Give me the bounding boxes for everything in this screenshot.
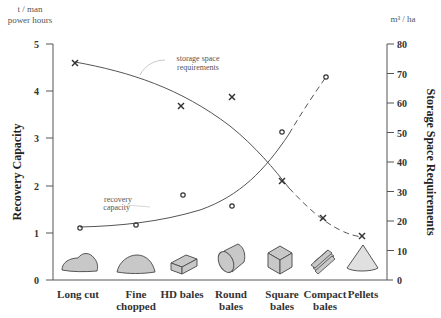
recovery-curve <box>80 134 289 227</box>
o-marker-compact-bales <box>324 75 328 79</box>
left-unit-line2: power hours <box>8 15 53 25</box>
storage-annotation-line1: storage space <box>177 54 220 63</box>
x-marker-round-bales <box>229 94 235 100</box>
storage-annotation-leader <box>140 60 165 75</box>
right-tick: 20 <box>397 216 407 227</box>
hd-bale-box-icon <box>171 255 197 274</box>
o-marker-long-cut <box>78 226 82 230</box>
right-tick: 0 <box>397 275 402 286</box>
recovery-curve-dashed <box>289 77 326 134</box>
category-label-compact-bales-2: bales <box>313 300 338 312</box>
right-tick: 80 <box>397 39 407 50</box>
left-tick: 1 <box>34 228 39 239</box>
shape-icons <box>62 244 378 275</box>
category-label-pellets: Pellets <box>348 288 379 300</box>
right-axis-title: Storage Space Requirements <box>424 88 438 235</box>
storage-annotation-line2: requirements <box>177 63 219 72</box>
right-tick: 10 <box>397 246 407 257</box>
long-cut-heap-icon <box>62 254 98 272</box>
category-label-square-bales-2: bales <box>270 300 295 312</box>
left-unit-line1: t / man <box>18 4 43 14</box>
storage-curve-dashed <box>289 188 362 237</box>
square-bale-cube-icon <box>268 246 292 274</box>
fine-chopped-heap-icon <box>117 255 155 274</box>
x-marker-pellets <box>359 233 365 239</box>
right-tick: 70 <box>397 69 407 80</box>
pellets-cone-icon <box>347 245 378 271</box>
x-marker-long-cut <box>72 60 78 66</box>
category-label-fine-chopped-2: chopped <box>116 300 156 312</box>
category-label-compact-bales-1: Compact <box>304 288 347 300</box>
category-label-round-bales-1: Round <box>215 288 247 300</box>
o-marker-round-bales <box>230 204 234 208</box>
storage-markers <box>72 60 365 239</box>
storage-curve <box>75 62 289 188</box>
left-tick: 4 <box>34 86 39 97</box>
category-labels: Long cut Fine chopped HD bales Round bal… <box>57 288 379 312</box>
left-axis-title: Recovery Capacity <box>10 124 24 221</box>
o-marker-hd-bales <box>181 193 185 197</box>
compact-bale-bundle-icon <box>311 250 335 274</box>
right-tick: 40 <box>397 157 407 168</box>
chart: 0 1 2 3 4 5 0 10 20 30 40 50 60 70 80 t … <box>0 0 441 318</box>
recovery-annotation-line2: capacity <box>103 203 130 212</box>
right-tick: 30 <box>397 187 407 198</box>
right-axis <box>387 44 394 280</box>
right-tick: 50 <box>397 128 407 139</box>
o-marker-square-bales <box>280 130 284 134</box>
right-unit: m³ / ha <box>390 14 415 24</box>
right-tick-labels: 0 10 20 30 40 50 60 70 80 <box>397 39 407 286</box>
left-axis <box>46 44 53 280</box>
category-label-long-cut: Long cut <box>57 288 99 300</box>
right-tick: 60 <box>397 98 407 109</box>
x-marker-hd-bales <box>178 103 184 109</box>
category-label-fine-chopped-1: Fine <box>126 288 147 300</box>
round-bale-cylinder-icon <box>215 244 245 275</box>
left-tick: 0 <box>34 275 39 286</box>
left-tick-labels: 0 1 2 3 4 5 <box>34 39 39 286</box>
left-tick: 3 <box>34 133 39 144</box>
left-tick: 2 <box>34 181 39 192</box>
category-label-round-bales-2: bales <box>219 300 244 312</box>
left-tick: 5 <box>34 39 39 50</box>
recovery-annotation-leader <box>127 205 150 207</box>
category-label-hd-bales: HD bales <box>160 288 204 300</box>
category-label-square-bales-1: Square <box>265 288 299 300</box>
